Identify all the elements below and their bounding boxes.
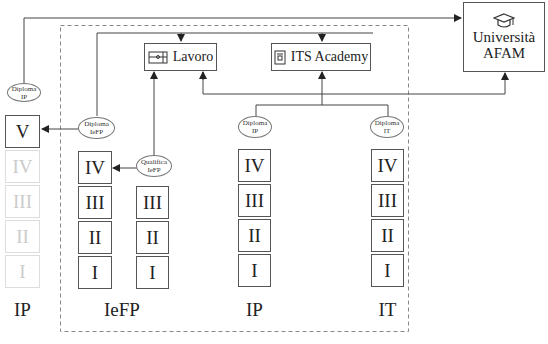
oval-text: Diploma: [84, 120, 109, 128]
afam-label: AFAM: [483, 45, 525, 61]
oval-text: IeFP: [90, 128, 103, 136]
ip-left-year-iii: III: [5, 185, 40, 218]
iefp-a-year-i: I: [78, 256, 112, 289]
lavoro-box: Lavoro: [144, 43, 217, 71]
iefp-a-year-iv: IV: [78, 151, 112, 184]
iefp-a-year-ii: II: [78, 221, 112, 254]
iefp-b-year-ii: II: [136, 221, 169, 254]
it-year-iii: III: [371, 184, 404, 217]
it-year-ii: II: [371, 219, 404, 252]
oval-diploma-it: DiplomaIT: [370, 116, 404, 138]
iefp-a-year-iii: III: [78, 186, 112, 219]
ip-left-year-iv: IV: [5, 150, 40, 183]
ip-left-year-i: I: [5, 255, 40, 288]
ip-left-year-ii: II: [5, 220, 40, 253]
oval-text: Qualifica: [141, 158, 167, 166]
oval-diploma-iefp: DiplomaIeFP: [78, 117, 115, 139]
it-year-iv: IV: [371, 149, 404, 182]
ip-year-ii: II: [238, 219, 271, 252]
book-icon: [274, 50, 286, 65]
ip-year-iv: IV: [238, 149, 271, 182]
oval-qualifica-iefp: QualificaIeFP: [136, 155, 172, 177]
ip-year-i: I: [238, 254, 271, 287]
iefp-b-year-i: I: [136, 256, 169, 289]
oval-text: Diploma: [375, 119, 400, 127]
universita-afam-box: Università AFAM: [463, 2, 545, 72]
iefp-b-year-iii: III: [136, 186, 169, 219]
lavoro-label: Lavoro: [173, 49, 213, 65]
ip-year-iii: III: [238, 184, 271, 217]
its-academy-box: ITS Academy: [271, 43, 371, 71]
oval-text: IP: [252, 127, 258, 135]
oval-text: IT: [384, 127, 391, 135]
ip-left-label: IP: [5, 299, 40, 321]
it-label: IT: [371, 299, 404, 321]
ip-label: IP: [238, 299, 271, 321]
oval-text: Diploma: [243, 119, 268, 127]
oval-diploma-ip-left: DiplomaIP: [7, 83, 41, 102]
its-academy-label: ITS Academy: [291, 49, 368, 65]
it-year-i: I: [371, 254, 404, 287]
ip-left-year-v: V: [5, 115, 40, 148]
oval-diploma-ip: DiplomaIP: [238, 116, 272, 138]
universita-label: Università: [473, 29, 535, 45]
iefp-label: IeFP: [90, 299, 154, 321]
briefcase-icon: [148, 50, 168, 64]
graduation-cap-icon: [493, 13, 515, 29]
oval-text: IP: [21, 93, 27, 101]
oval-text: Diploma: [12, 85, 37, 93]
oval-text: IeFP: [147, 166, 160, 174]
